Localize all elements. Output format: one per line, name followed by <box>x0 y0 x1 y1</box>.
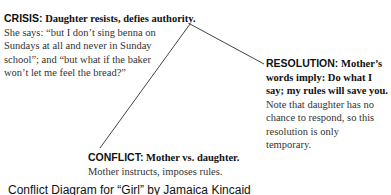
conflict-body: Mother instructs, imposes rules. <box>88 165 308 179</box>
crisis-node: CRISIS: Daughter resists, defies authori… <box>4 12 209 80</box>
conflict-node: CONFLICT: Mother vs. daughter. Mother in… <box>88 151 308 178</box>
resolution-node: RESOLUTION: Mother’s words imply: Do wha… <box>266 57 391 152</box>
crisis-label: CRISIS: <box>4 12 43 24</box>
crisis-heading: Daughter resists, defies authority. <box>45 13 195 24</box>
diagram-caption: Conflict Diagram for “Girl” by Jamaica K… <box>8 183 251 195</box>
conflict-heading: Mother vs. daughter. <box>146 152 239 163</box>
resolution-body: Note that daughter has no chance to resp… <box>266 98 378 152</box>
conflict-label: CONFLICT: <box>88 151 143 163</box>
crisis-body: She says: “but I don’t sing benna on Sun… <box>4 26 166 80</box>
resolution-label: RESOLUTION: <box>266 57 338 69</box>
